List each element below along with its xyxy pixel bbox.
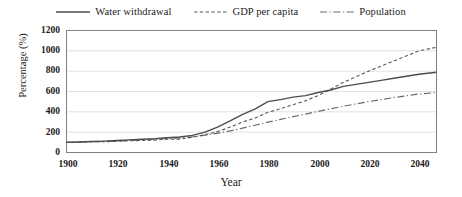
population-line	[67, 93, 437, 143]
plot-area	[0, 0, 462, 197]
gdp-per-capita-line	[67, 47, 437, 142]
gridlines	[66, 31, 437, 133]
series-lines	[67, 47, 437, 142]
water-gdp-population-line-chart: Water withdrawal GDP per capita Populati…	[0, 0, 462, 197]
